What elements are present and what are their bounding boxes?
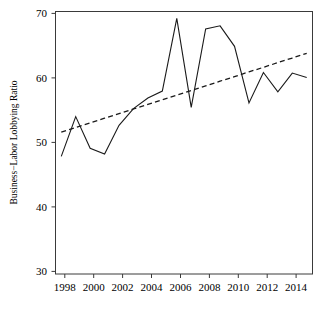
chart-figure: 30 40 50 60 70 1998 2000 2002 2004 2006 … — [0, 0, 330, 309]
y-tick-label-1: 40 — [36, 201, 48, 213]
x-tick-label-5: 2008 — [198, 281, 221, 293]
x-tick-label-7: 2012 — [256, 281, 278, 293]
line-chart: 30 40 50 60 70 1998 2000 2002 2004 2006 … — [0, 0, 330, 309]
x-tick-label-1: 2000 — [83, 281, 106, 293]
y-tick-label-2: 50 — [36, 136, 48, 148]
x-tick-label-6: 2010 — [227, 281, 250, 293]
y-tick-label-3: 60 — [36, 72, 48, 84]
x-tick-label-0: 1998 — [54, 281, 77, 293]
y-axis-title: Business−Labor Lobbying Ratio — [9, 80, 19, 204]
x-tick-label-2: 2002 — [112, 281, 134, 293]
x-tick-label-3: 2004 — [141, 281, 164, 293]
chart-background — [0, 0, 330, 309]
y-tick-label-4: 70 — [36, 7, 48, 19]
y-tick-label-0: 30 — [36, 265, 48, 277]
x-axis-tick-labels: 1998 2000 2002 2004 2006 2008 2010 2012 … — [54, 281, 308, 293]
x-tick-label-8: 2014 — [285, 281, 308, 293]
x-tick-label-4: 2006 — [170, 281, 193, 293]
